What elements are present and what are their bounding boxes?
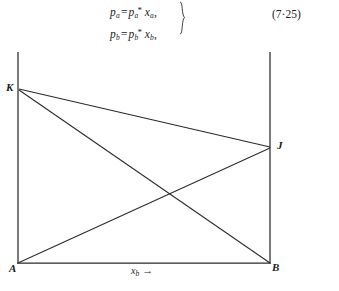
x-axis-label-subscript: b [135, 269, 139, 278]
vertex-label-B: B [272, 261, 279, 273]
equation-pa-lhs: pa [110, 6, 120, 18]
equation-pa: pa=pa* xa, [110, 2, 230, 24]
x-axis-arrow-icon: → [142, 264, 152, 276]
figure-caption [38, 285, 308, 291]
chord-KB [19, 90, 270, 263]
page-root: pa=pa* xa, pb=pb* xb, (7·25) K J [0, 0, 339, 291]
vertex-label-A: A [9, 262, 16, 274]
equation-pb-comma: , [154, 28, 157, 40]
equation-pb: pb=pb* xb, [110, 24, 230, 46]
equation-number: (7·25) [272, 8, 301, 20]
equation-pa-relation: = [120, 6, 129, 18]
equation-block: pa=pa* xa, pb=pb* xb, [110, 2, 230, 46]
equation-pa-variable: xa [142, 6, 154, 18]
equation-pb-rhs: pb* [129, 28, 143, 40]
vertex-label-K: K [6, 81, 13, 93]
equation-pb-variable: xb [142, 28, 154, 40]
equation-pb-relation: = [120, 28, 129, 40]
chord-AJ [18, 148, 270, 263]
x-axis-label: xb→ [131, 264, 152, 278]
chord-KJ [19, 89, 270, 147]
equation-pa-rhs: pa* [129, 6, 143, 18]
figure-svg [0, 44, 339, 291]
equation-pb-lhs: pb [110, 28, 120, 40]
vertex-label-J: J [277, 139, 283, 151]
figure-diagram: K J A B xb→ [0, 44, 339, 291]
equation-pa-comma: , [154, 6, 157, 18]
